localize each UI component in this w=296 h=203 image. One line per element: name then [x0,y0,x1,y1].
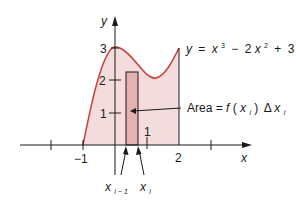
x-tick-label-neg1: −1 [74,152,88,166]
curve-equation: y = x 3 − 2 x 2 + 3 [185,37,295,56]
approximating-rectangle [126,72,138,145]
x-prev-arrow-icon [123,146,129,155]
x-axis-label: x [240,151,248,165]
x-prev-label: x i − 1 [104,180,128,195]
y-tick-label-2: 2 [99,74,106,88]
y-tick-label-1: 1 [100,107,107,121]
y-axis-arrow-icon [112,16,118,26]
x-axis-arrow-icon [242,142,252,148]
y-tick-label-3: 3 [100,42,107,56]
x-curr-label: x i [139,180,151,195]
x-tick-label-1: 1 [144,125,151,139]
area-under-curve-diagram: y x 3 2 1 −1 1 2 y = x 3 − 2 x 2 + 3 Are… [0,0,296,203]
y-axis-label: y [100,14,108,28]
area-label: Area = f ( x i ) Δ x i [187,101,286,118]
x-curr-arrow-icon [136,146,142,155]
x-tick-label-2: 2 [175,151,182,165]
